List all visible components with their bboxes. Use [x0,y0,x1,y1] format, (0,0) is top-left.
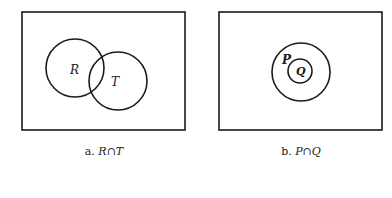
set-label-r: R [69,63,79,77]
caption-a: a. R∩T [44,145,164,158]
caption-a-expression: R∩T [98,145,123,158]
set-label-q: Q [296,65,306,78]
caption-b-expression: P∩Q [295,145,321,158]
caption-b-prefix: b. [281,145,292,158]
caption-b: b. P∩Q [241,145,361,158]
caption-a-prefix: a. [85,145,95,158]
diagram-a: R T [22,12,185,130]
set-label-p: P [281,53,292,67]
set-label-t: T [111,75,120,89]
venn-diagrams: R T P Q [0,0,392,198]
diagram-b: P Q [219,12,382,130]
